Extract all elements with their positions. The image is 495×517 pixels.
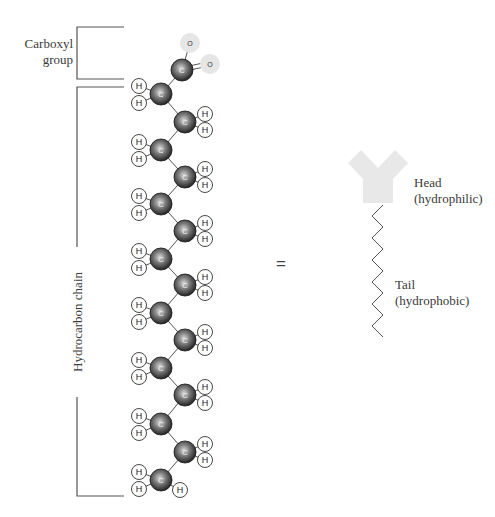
hydrogen-atom-symbol: H bbox=[136, 246, 143, 256]
hydrogen-atom-symbol: H bbox=[202, 398, 209, 408]
hydrogen-atom-symbol: H bbox=[136, 467, 143, 477]
bracket-hydrocarbon_top bbox=[77, 87, 124, 247]
carbon-atom: C bbox=[150, 139, 172, 161]
hydrogen-atom-symbol: H bbox=[136, 355, 143, 365]
carbon-atom-symbol: C bbox=[158, 309, 164, 318]
carbon-atom: C bbox=[150, 302, 172, 324]
carbon-atom-symbol: C bbox=[158, 200, 164, 209]
hydrogen-atom: H bbox=[198, 437, 213, 452]
bracket-carboxyl bbox=[77, 27, 124, 79]
hydrogen-atom-symbol: H bbox=[202, 439, 209, 449]
hydrogen-atom: H bbox=[198, 325, 213, 340]
carbon-atom: C bbox=[150, 413, 172, 435]
hydrogen-atom-symbol: H bbox=[202, 109, 209, 119]
hydrogen-atom: H bbox=[198, 162, 213, 177]
carbon-atom: C bbox=[174, 166, 196, 188]
hydrogen-atom-symbol: H bbox=[136, 208, 143, 218]
hydrogen-atom: H bbox=[132, 189, 147, 204]
hydrogen-atom-symbol: H bbox=[202, 164, 209, 174]
carbon-atom-symbol: C bbox=[158, 420, 164, 429]
hydrogen-atom: H bbox=[198, 123, 213, 138]
hydrogen-atom-symbol: H bbox=[202, 382, 209, 392]
carboxyl-carbon-atom: C bbox=[171, 59, 193, 81]
hydrogen-atom: H bbox=[132, 426, 147, 441]
carbon-atom: C bbox=[150, 248, 172, 270]
carbon-atom-symbol: C bbox=[182, 336, 188, 345]
hydrogen-atom: H bbox=[132, 315, 147, 330]
carbon-atom: C bbox=[174, 111, 196, 133]
hydrogen-atom-symbol: H bbox=[136, 263, 143, 273]
hydrogen-atom: H bbox=[132, 79, 147, 94]
hydrogen-atom: H bbox=[198, 341, 213, 356]
hydrogen-atom: H bbox=[132, 370, 147, 385]
hydrogen-atom-symbol: H bbox=[136, 300, 143, 310]
hydrogen-atom-symbol: H bbox=[136, 484, 143, 494]
hydrogen-atom-symbol: H bbox=[202, 288, 209, 298]
hydrogen-atom: H bbox=[132, 135, 147, 150]
hydrogen-atom-symbol: H bbox=[136, 154, 143, 164]
head-label: Head (hydrophilic) bbox=[414, 175, 483, 207]
carbon-atom: C bbox=[174, 220, 196, 242]
hydrogen-atom: H bbox=[198, 270, 213, 285]
carbon-atom-symbol: C bbox=[158, 255, 164, 264]
atoms: OOHHHHHHHHHHHHHHHHHHHHHHHHHHHHHHHCCCCCCC… bbox=[132, 33, 221, 498]
carboxyl-label-line1: Carboxyl bbox=[10, 36, 73, 52]
hydrogen-atom: H bbox=[132, 96, 147, 111]
carbon-atom: C bbox=[150, 83, 172, 105]
carbon-atom-symbol: C bbox=[158, 364, 164, 373]
carbon-atom: C bbox=[150, 357, 172, 379]
hydrogen-atom: H bbox=[132, 261, 147, 276]
oxygen-atom-symbol: O bbox=[207, 61, 213, 68]
hydrogen-atom-symbol: H bbox=[136, 81, 143, 91]
hydrogen-atom-symbol: H bbox=[202, 272, 209, 282]
hydrogen-atom: H bbox=[132, 206, 147, 221]
hydrophilic-head-shape bbox=[348, 150, 408, 203]
brackets bbox=[77, 27, 124, 496]
head-label-line2: (hydrophilic) bbox=[414, 191, 483, 207]
carbon-atom: C bbox=[174, 441, 196, 463]
carbon-atom-symbol: C bbox=[182, 448, 188, 457]
carbon-atom: C bbox=[150, 193, 172, 215]
hydrogen-atom: H bbox=[198, 216, 213, 231]
hydrogen-atom: H bbox=[132, 482, 147, 497]
oxygen-atom: O bbox=[200, 54, 220, 74]
carbon-atom: C bbox=[174, 329, 196, 351]
hydrogen-atom-symbol: H bbox=[202, 327, 209, 337]
carbon-atom: C bbox=[174, 384, 196, 406]
carboxyl-label-line2: group bbox=[10, 52, 73, 68]
carbon-atom-symbol: C bbox=[182, 227, 188, 236]
hydrogen-atom: H bbox=[132, 152, 147, 167]
hydrogen-atom-symbol: H bbox=[202, 180, 209, 190]
carbon-atom: C bbox=[174, 274, 196, 296]
hydrophobic-tail-zigzag bbox=[372, 205, 383, 337]
hydrogen-atom-symbol: H bbox=[136, 317, 143, 327]
carbon-atom: C bbox=[150, 469, 172, 491]
oxygen-atom: O bbox=[180, 33, 200, 53]
tail-label-line2: (hydrophobic) bbox=[395, 293, 469, 309]
molecule-canvas: OOHHHHHHHHHHHHHHHHHHHHHHHHHHHHHHHCCCCCCC… bbox=[0, 0, 495, 517]
hydrogen-atom: H bbox=[198, 178, 213, 193]
hydrogen-atom-symbol: H bbox=[136, 411, 143, 421]
oxygen-atom-symbol: O bbox=[187, 40, 193, 47]
carboxyl-carbon-atom-symbol: C bbox=[179, 66, 185, 75]
carbon-atom-symbol: C bbox=[182, 118, 188, 127]
carboxyl-group-label: Carboxyl group bbox=[10, 36, 73, 68]
hydrogen-atom-symbol: H bbox=[136, 191, 143, 201]
hydrogen-atom: H bbox=[132, 409, 147, 424]
hydrogen-atom-symbol: H bbox=[202, 234, 209, 244]
carbon-atom-symbol: C bbox=[182, 391, 188, 400]
hydrogen-atom: H bbox=[198, 453, 213, 468]
hydrogen-atom-symbol: H bbox=[202, 343, 209, 353]
carbon-atom-symbol: C bbox=[158, 146, 164, 155]
head-label-line1: Head bbox=[414, 175, 483, 191]
hydrogen-atom-symbol: H bbox=[136, 428, 143, 438]
carbon-atom-symbol: C bbox=[182, 173, 188, 182]
carbon-atom-symbol: C bbox=[158, 90, 164, 99]
hydrogen-atom: H bbox=[198, 380, 213, 395]
hydrogen-atom: H bbox=[132, 353, 147, 368]
bracket-hydrocarbon_bottom bbox=[77, 397, 124, 496]
hydrogen-atom: H bbox=[198, 396, 213, 411]
hydrogen-atom: H bbox=[132, 465, 147, 480]
carbon-atom-symbol: C bbox=[158, 476, 164, 485]
hydrogen-atom-symbol: H bbox=[202, 455, 209, 465]
